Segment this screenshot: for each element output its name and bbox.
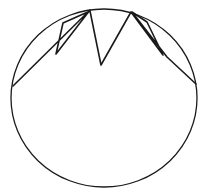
circle-outline: [11, 9, 197, 187]
zigzag-polyline: [13, 10, 196, 86]
sketch-canvas: [0, 0, 208, 196]
sketch-drawing: [0, 0, 208, 196]
